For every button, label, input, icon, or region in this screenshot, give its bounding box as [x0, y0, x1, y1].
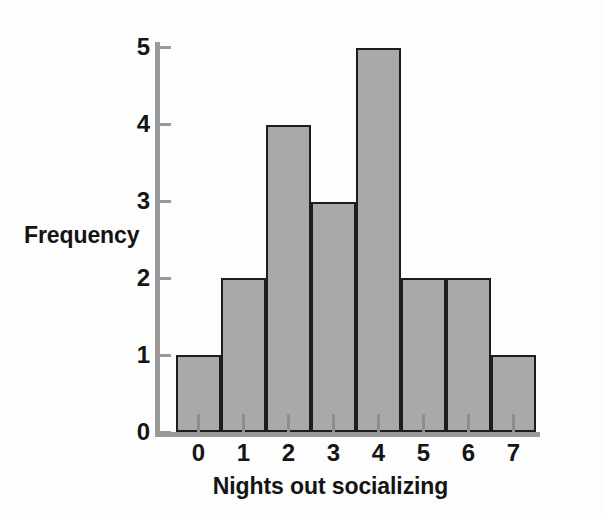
x-axis-title: Nights out socializing: [0, 473, 603, 500]
bar-3: [311, 202, 356, 432]
bar-6: [446, 278, 491, 432]
x-tick-5: [422, 414, 425, 432]
y-tick-label-3: 3: [110, 187, 150, 215]
x-tick-label-2: 2: [269, 439, 309, 467]
x-tick-label-6: 6: [449, 439, 489, 467]
x-tick-7: [512, 414, 515, 432]
x-tick-label-1: 1: [224, 439, 264, 467]
histogram-figure: 0 1 2 3 4 5 0 1 2 3 4 5 6 7 Frequency Ni…: [0, 0, 603, 519]
bar-2: [266, 125, 311, 432]
x-tick-3: [332, 414, 335, 432]
y-axis-line: [155, 42, 160, 436]
y-tick-1: [160, 354, 171, 357]
x-tick-0: [197, 414, 200, 432]
y-tick-3: [160, 200, 171, 203]
bar-1: [221, 278, 266, 432]
y-tick-label-4: 4: [110, 110, 150, 138]
y-axis-title: Frequency: [24, 222, 139, 249]
bar-4: [356, 48, 401, 432]
x-tick-label-3: 3: [314, 439, 354, 467]
y-tick-5: [160, 46, 171, 49]
x-tick-2: [287, 414, 290, 432]
x-tick-label-4: 4: [359, 439, 399, 467]
y-tick-2: [160, 277, 171, 280]
x-tick-4: [377, 414, 380, 432]
x-tick-label-5: 5: [404, 439, 444, 467]
x-tick-6: [467, 414, 470, 432]
y-tick-4: [160, 123, 171, 126]
y-tick-0: [160, 431, 171, 434]
y-tick-label-2: 2: [110, 264, 150, 292]
y-tick-label-0: 0: [110, 418, 150, 446]
x-axis-line: [155, 432, 540, 437]
x-tick-label-0: 0: [179, 439, 219, 467]
y-tick-label-5: 5: [110, 33, 150, 61]
x-tick-label-7: 7: [494, 439, 534, 467]
y-tick-label-1: 1: [110, 341, 150, 369]
x-tick-1: [242, 414, 245, 432]
bar-5: [401, 278, 446, 432]
